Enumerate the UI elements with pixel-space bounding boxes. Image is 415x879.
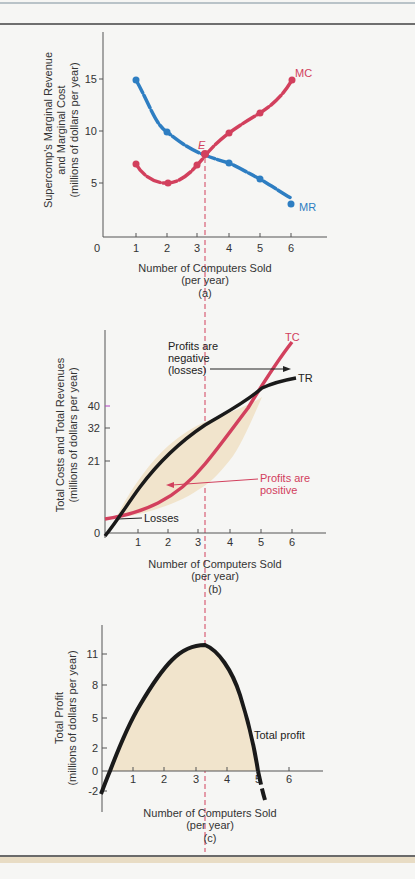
panel-c-xtick: 6 (286, 773, 292, 785)
panel-b: Total Costs and Total Revenues (millions… (54, 330, 326, 595)
total-profit-curve-tail (258, 771, 265, 800)
panel-b-xtick: 5 (258, 536, 264, 548)
panel-c-xtick: 3 (193, 773, 199, 785)
panel-a-ylabel-line3: (millions of dollars per year) (68, 62, 80, 197)
panel-c-xlabel-sub: (per year) (186, 819, 234, 831)
panel-a-ylabel: Supercomp's Marginal Revenue and Margina… (42, 52, 80, 208)
panel-a-ytick: 15 (85, 73, 97, 85)
panel-b-ytick: 0 (94, 527, 100, 539)
panel-c-ytick: 5 (92, 712, 98, 724)
mr-label: MR (299, 201, 316, 213)
panel-a-xtick: 4 (226, 242, 232, 254)
figure-canvas: Supercomp's Marginal Revenue and Margina… (0, 0, 415, 879)
mc-label: MC (295, 67, 312, 79)
panel-c-ytick: -2 (88, 785, 98, 797)
panel-c-ytick: 0 (92, 765, 98, 777)
mr-curve (136, 80, 291, 198)
panel-a-xtick: 3 (194, 242, 200, 254)
panel-c-ylabel-line1: Total Profit (53, 692, 65, 744)
profits-negative-note-line2: negative (168, 352, 210, 364)
panel-b-ylabel-line1: Total Costs and Total Revenues (54, 357, 66, 512)
profit-area-b (117, 397, 262, 516)
panel-b-xtick: 1 (135, 536, 141, 548)
panel-c-xtick: 2 (161, 773, 167, 785)
profit-area-c (110, 645, 258, 771)
panel-b-xtick: 2 (165, 536, 171, 548)
losses-note: Losses (144, 512, 179, 524)
panel-a-xtick: 5 (257, 242, 263, 254)
panel-b-ytick: 40 (88, 400, 100, 412)
panel-c-ylabel-line2: (millions of dollars per year) (66, 650, 78, 785)
panel-c-ytick: 2 (92, 742, 98, 754)
negative-arrow-head (283, 366, 291, 372)
panel-c-ytick: 8 (92, 679, 98, 691)
panel-a-ylabel-line2: and Marginal Cost (55, 85, 67, 174)
panel-a-ytick: 5 (91, 177, 97, 189)
profits-positive-note-line1: Profits are (260, 472, 310, 484)
panel-b-ytick: 21 (88, 455, 100, 467)
tc-label: TC (285, 331, 300, 343)
panel-a-xtick: 0 (94, 242, 100, 254)
panel-b-ylabel: Total Costs and Total Revenues (millions… (54, 357, 79, 512)
panel-b-xlabel: Number of Computers Sold (148, 558, 281, 570)
panel-b-ytick: 32 (88, 422, 100, 434)
total-profit-label: Total profit (254, 729, 305, 741)
profits-negative-note-line1: Profits are (168, 340, 218, 352)
panel-a-caption: (a) (198, 287, 211, 299)
panel-a-xlabel: Number of Computers Sold (138, 262, 271, 274)
panel-b-xlabel-sub: (per year) (191, 570, 239, 582)
panel-b-xtick: 3 (195, 536, 201, 548)
mr-points (133, 77, 295, 208)
panel-c-ylabel: Total Profit (millions of dollars per ye… (53, 650, 78, 785)
panel-c-xtick: 1 (130, 773, 136, 785)
panel-c-ytick: 11 (87, 648, 98, 660)
panel-c-xlabel: Number of Computers Sold (143, 807, 276, 819)
panel-c-caption: (c) (204, 832, 217, 844)
panel-b-caption: (b) (208, 583, 221, 595)
panel-b-xtick: 4 (227, 536, 233, 548)
panel-a-xtick: 2 (164, 242, 170, 254)
mc-curve (136, 80, 292, 183)
panel-a: Supercomp's Marginal Revenue and Margina… (42, 32, 327, 299)
panel-a-xlabel-sub: (per year) (181, 274, 229, 286)
panel-b-ylabel-line2: (millions of dollars per year) (67, 367, 79, 502)
panel-c-xtick: 4 (224, 773, 230, 785)
panel-a-ylabel-line1: Supercomp's Marginal Revenue (42, 52, 54, 208)
equilibrium-label-e: E (198, 139, 206, 151)
panel-a-xtick: 1 (133, 242, 139, 254)
panel-b-xtick: 6 (289, 536, 295, 548)
panel-c: Total Profit (millions of dollars per ye… (53, 625, 323, 844)
tr-label: TR (298, 372, 313, 384)
panel-a-xtick: 6 (288, 242, 294, 254)
mc-points (133, 77, 296, 187)
profits-negative-note-line3: (losses) (168, 364, 207, 376)
losses-pointer (118, 518, 142, 519)
profits-positive-note-line2: positive (260, 484, 297, 496)
panel-a-ytick: 10 (85, 125, 97, 137)
